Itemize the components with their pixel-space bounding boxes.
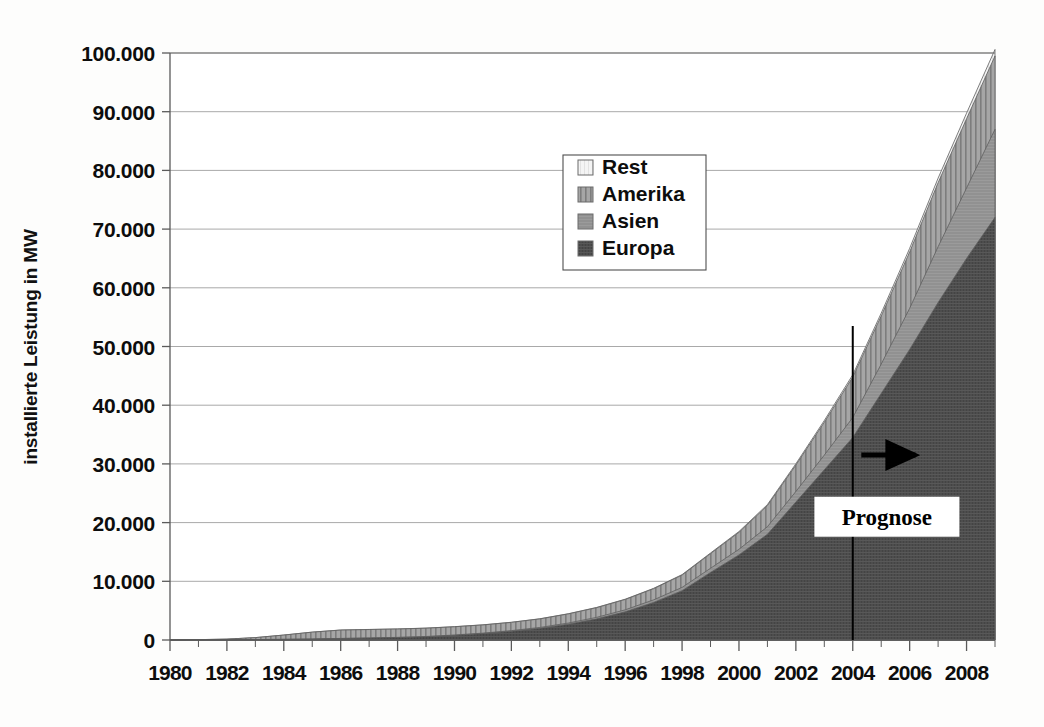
- legend-swatch-asien: [578, 214, 593, 229]
- stacked-area-chart: 010.00020.00030.00040.00050.00060.00070.…: [0, 0, 1044, 727]
- x-tick-label-1986: 1986: [319, 661, 363, 684]
- y-tick-label-70000: 70.000: [93, 218, 155, 241]
- x-tick-label-1992: 1992: [490, 661, 534, 684]
- x-axis-ticks: 1980198219841986198819901992199419961998…: [148, 640, 995, 684]
- legend-swatch-rest: [578, 160, 593, 175]
- x-tick-label-2002: 2002: [774, 661, 818, 684]
- x-tick-label-1998: 1998: [660, 661, 705, 684]
- y-tick-label-60000: 60.000: [93, 277, 155, 300]
- y-tick-label-80000: 80.000: [93, 159, 155, 182]
- legend-label-europa: Europa: [602, 236, 675, 259]
- y-tick-label-30000: 30.000: [93, 453, 155, 476]
- legend-swatch-amerika: [578, 187, 593, 202]
- x-tick-label-2004: 2004: [831, 661, 876, 684]
- y-axis-title: installierte Leistung in MW: [20, 229, 41, 465]
- y-tick-label-90000: 90.000: [93, 101, 155, 124]
- x-tick-label-1982: 1982: [205, 661, 249, 684]
- x-tick-label-1984: 1984: [262, 661, 307, 684]
- y-tick-label-40000: 40.000: [93, 394, 155, 417]
- prognose-label: Prognose: [842, 505, 932, 530]
- x-tick-label-2006: 2006: [888, 661, 932, 684]
- legend-label-rest: Rest: [602, 155, 648, 178]
- x-tick-label-1980: 1980: [148, 661, 192, 684]
- y-tick-label-20000: 20.000: [93, 512, 155, 535]
- y-tick-label-0: 0: [144, 629, 155, 652]
- y-tick-label-10000: 10.000: [93, 570, 155, 593]
- x-tick-label-1996: 1996: [603, 661, 647, 684]
- y-tick-label-100000: 100.000: [81, 42, 155, 65]
- x-tick-label-1994: 1994: [547, 661, 592, 684]
- y-tick-label-50000: 50.000: [93, 336, 155, 359]
- x-tick-label-1988: 1988: [376, 661, 421, 684]
- legend-label-asien: Asien: [602, 209, 659, 232]
- legend-swatch-europa: [578, 241, 593, 256]
- legend-label-amerika: Amerika: [602, 182, 685, 205]
- x-tick-label-2000: 2000: [717, 661, 761, 684]
- x-tick-label-2008: 2008: [945, 661, 990, 684]
- chart-legend: RestAmerikaAsienEuropa: [563, 155, 706, 270]
- chart-page: 010.00020.00030.00040.00050.00060.00070.…: [0, 0, 1044, 727]
- x-tick-label-1990: 1990: [433, 661, 477, 684]
- y-axis-ticks: 010.00020.00030.00040.00050.00060.00070.…: [81, 42, 170, 652]
